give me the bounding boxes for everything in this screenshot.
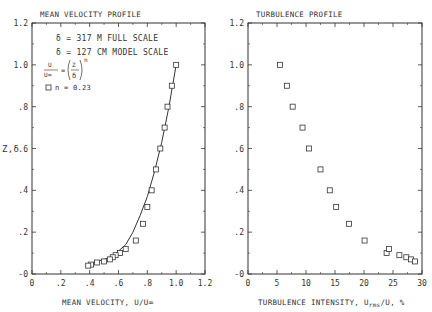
x-tick-label: 30 [417, 279, 427, 288]
x-tick-label: 20 [359, 279, 369, 288]
svg-text:=: = [61, 67, 66, 75]
data-point-square-marker [153, 167, 158, 172]
left-y-axis: -0.2.4.6.81.01.2 [14, 19, 205, 279]
legend-square-marker-icon [46, 85, 51, 90]
x-tick-label: 0 [246, 279, 251, 288]
svg-text:δ: δ [72, 72, 77, 80]
y-tick-label: .8 [18, 103, 28, 112]
x-tick-label: .8 [143, 279, 153, 288]
data-point-square-marker [86, 263, 91, 268]
data-point-square-marker [386, 246, 391, 251]
turbulence-data-points [277, 62, 417, 264]
y-tick-label: .6 [234, 145, 244, 154]
data-point-square-marker [300, 125, 305, 130]
legend: n = 0.23 [46, 84, 91, 92]
x-tick-label: .6 [114, 279, 124, 288]
data-point-square-marker [133, 238, 138, 243]
data-point-square-marker [284, 83, 289, 88]
y-tick-label: .2 [234, 228, 244, 237]
x-tick-label: 1.0 [169, 279, 184, 288]
y-tick-label: .4 [234, 186, 244, 195]
data-point-square-marker [290, 104, 295, 109]
y-tick-label: -0 [234, 270, 244, 279]
y-tick-label: 1.2 [230, 19, 245, 28]
right-x-axis-label: TURBULENCE INTENSITY, Urms/U, % [258, 298, 405, 308]
data-point-square-marker [149, 188, 154, 193]
data-point-square-marker [346, 221, 351, 226]
velocity-data-points [86, 62, 179, 268]
data-point-square-marker [162, 125, 167, 130]
x-tick-label: .2 [56, 279, 66, 288]
chart-canvas: MEAN VELOCITY PROFILE -0.2.4.6.81.01.2 0… [0, 0, 432, 312]
svg-text:Z: Z [72, 61, 76, 68]
right-plot-frame [248, 23, 422, 274]
right-chart-title: TURBULENCE PROFILE [256, 10, 343, 19]
data-point-square-marker [169, 83, 174, 88]
data-point-square-marker [174, 62, 179, 67]
data-point-square-marker [318, 167, 323, 172]
left-plot-frame [32, 23, 205, 274]
y-tick-label: -0 [18, 270, 28, 279]
data-point-square-marker [145, 205, 150, 210]
y-tick-label: 1.2 [14, 19, 29, 28]
annotation-full-scale: δ = 317 M FULL SCALE [56, 34, 158, 43]
y-tick-label: .8 [234, 103, 244, 112]
data-point-square-marker [413, 259, 418, 264]
data-point-square-marker [158, 146, 163, 151]
left-chart-title: MEAN VELOCITY PROFILE [40, 10, 141, 19]
legend-label: n = 0.23 [55, 84, 91, 92]
x-tick-label: .4 [85, 279, 95, 288]
y-tick-label: 1.0 [14, 61, 29, 70]
left-y-axis-label: Z,δ [2, 144, 19, 154]
data-point-square-marker [123, 246, 128, 251]
svg-text:U: U [48, 61, 52, 68]
data-point-square-marker [102, 259, 107, 264]
y-tick-label: 1.0 [230, 61, 245, 70]
data-point-square-marker [306, 146, 311, 151]
y-tick-label: .6 [18, 145, 28, 154]
left-x-axis-label: MEAN VELOCITY, U/U∞ [62, 298, 154, 307]
right-y-axis: -0.2.4.6.81.01.2 [230, 19, 422, 279]
svg-text:U∞: U∞ [44, 71, 52, 78]
mean-velocity-chart: MEAN VELOCITY PROFILE -0.2.4.6.81.01.2 0… [2, 10, 212, 307]
data-point-square-marker [277, 62, 282, 67]
data-point-square-marker [94, 260, 99, 265]
annotation-model-scale: δ = 127 CM MODEL SCALE [56, 48, 169, 57]
y-tick-label: .4 [18, 186, 28, 195]
turbulence-chart: TURBULENCE PROFILE -0.2.4.6.81.01.2 0510… [230, 10, 427, 308]
data-point-square-marker [107, 257, 112, 262]
y-tick-label: .2 [18, 228, 28, 237]
x-tick-label: 0 [30, 279, 35, 288]
data-point-square-marker [165, 104, 170, 109]
data-point-square-marker [327, 188, 332, 193]
x-tick-label: 1.2 [198, 279, 213, 288]
data-point-square-marker [362, 238, 367, 243]
power-law-formula: U U∞ = Z δ n [44, 56, 88, 80]
power-law-fit-curve [88, 65, 176, 266]
right-x-axis: 051015202530 [246, 23, 427, 288]
x-tick-label: 10 [301, 279, 311, 288]
data-point-square-marker [334, 205, 339, 210]
x-tick-label: 5 [275, 279, 280, 288]
data-point-square-marker [397, 253, 402, 258]
data-point-square-marker [141, 221, 146, 226]
svg-text:n: n [84, 56, 88, 63]
x-tick-label: 15 [330, 279, 340, 288]
x-tick-label: 25 [388, 279, 398, 288]
